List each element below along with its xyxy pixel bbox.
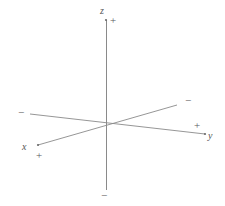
y-axis-endpoint-dot xyxy=(204,133,206,135)
y-axis-negative-sign: − xyxy=(18,107,24,118)
coordinate-axes-figure: z + − y + − x + − xyxy=(0,0,225,206)
x-axis-positive-sign: + xyxy=(36,150,42,161)
y-axis-label: y xyxy=(208,131,212,141)
z-axis-negative-sign: − xyxy=(101,190,107,201)
z-axis-positive-sign: + xyxy=(110,15,116,26)
y-axis-positive-sign: + xyxy=(194,120,200,131)
z-axis-label: z xyxy=(100,6,104,16)
z-axis-endpoint-dot xyxy=(105,19,107,21)
y-axis-line xyxy=(30,114,205,134)
x-axis-label: x xyxy=(22,142,26,152)
x-axis-negative-sign: − xyxy=(185,95,191,106)
x-axis-endpoint-dot xyxy=(37,144,39,146)
axes-drawing xyxy=(0,0,225,206)
x-axis-line xyxy=(38,105,177,145)
